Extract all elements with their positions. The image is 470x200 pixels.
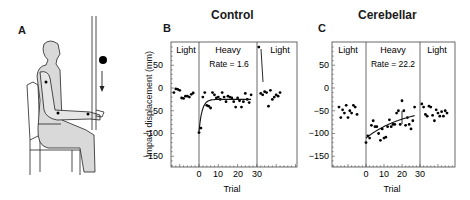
data-point <box>393 123 396 126</box>
data-point <box>384 136 387 139</box>
data-point <box>435 108 438 111</box>
data-point <box>257 46 260 49</box>
data-point <box>277 95 280 98</box>
plot-cerebellar: 50 0 −50 −100 −150 0 10 20 30 Trial Ligh… <box>309 42 455 194</box>
data-point <box>354 106 357 109</box>
data-point <box>223 96 226 99</box>
y-tick: −50 <box>314 106 329 116</box>
plot-control: 50 0 −50 −100 −150 0 10 20 30 Trial Ligh… <box>143 42 297 194</box>
data-point <box>273 96 276 99</box>
data-point <box>201 96 204 99</box>
data-point <box>404 124 407 127</box>
data-point <box>440 110 443 113</box>
plots-area: Impact displacement (mm) 50 0 −50 −100 −… <box>0 0 470 200</box>
y-tick: −100 <box>143 128 163 138</box>
y-tick: −150 <box>143 151 163 161</box>
data-point <box>437 112 440 115</box>
x-tick: 0 <box>363 169 368 179</box>
data-point <box>388 118 391 121</box>
data-point <box>446 112 449 115</box>
y-tick: −50 <box>148 106 163 116</box>
x-tick: 30 <box>415 169 425 179</box>
data-point <box>399 123 402 126</box>
data-point <box>401 99 404 102</box>
y-tick: −150 <box>309 151 329 161</box>
data-point <box>444 109 447 112</box>
data-point <box>411 119 414 122</box>
data-point <box>178 89 181 92</box>
data-point <box>426 115 429 118</box>
data-point <box>356 113 359 116</box>
data-point <box>232 100 235 103</box>
x-axis-label: Trial <box>223 184 240 194</box>
data-point <box>343 112 346 115</box>
data-point <box>198 131 201 134</box>
data-point <box>203 91 206 94</box>
data-point <box>368 137 371 140</box>
y-tick: 0 <box>324 83 329 93</box>
data-point <box>365 141 368 144</box>
data-point <box>438 115 441 118</box>
segment-label-light: Light <box>270 45 290 55</box>
data-point <box>279 91 282 94</box>
data-point <box>339 116 342 119</box>
data-point <box>433 119 436 122</box>
segment-label-light: Light <box>176 45 196 55</box>
data-point <box>341 108 344 111</box>
data-point <box>248 101 251 104</box>
data-point <box>242 100 245 103</box>
segment-label-light: Light <box>427 45 447 55</box>
y-tick: 50 <box>153 60 163 70</box>
data-point <box>225 100 228 103</box>
data-point <box>192 92 195 95</box>
data-point <box>240 106 243 109</box>
data-point <box>213 93 216 96</box>
data-point <box>173 91 176 94</box>
x-tick: 10 <box>213 169 223 179</box>
y-tick: −100 <box>309 128 329 138</box>
rate-annotation: Rate = 22.2 <box>371 59 415 69</box>
data-point <box>375 125 378 128</box>
data-point <box>410 128 413 131</box>
segment-label-heavy: Heavy <box>215 45 241 55</box>
data-point <box>347 116 350 119</box>
data-point <box>250 93 253 96</box>
data-point <box>221 91 224 94</box>
data-point <box>211 91 214 94</box>
rate-annotation: Rate = 1.6 <box>209 59 249 69</box>
data-point <box>408 123 411 126</box>
data-point <box>422 106 425 109</box>
x-tick: 10 <box>379 169 389 179</box>
data-point <box>261 93 264 96</box>
data-point <box>265 91 268 94</box>
data-point <box>350 112 353 115</box>
data-point <box>395 112 398 115</box>
data-point <box>188 96 191 99</box>
data-point <box>244 92 247 95</box>
data-point <box>370 124 373 127</box>
data-point <box>267 105 270 108</box>
data-point <box>217 96 220 99</box>
data-point <box>413 106 416 109</box>
data-point <box>182 97 185 100</box>
data-point <box>234 106 237 109</box>
y-tick: 50 <box>319 60 329 70</box>
data-point <box>377 132 380 135</box>
data-point <box>345 104 348 107</box>
transition-line <box>261 49 263 82</box>
data-point <box>348 109 351 112</box>
data-point <box>269 89 272 92</box>
data-point <box>209 107 212 110</box>
data-point <box>420 103 423 106</box>
segment-label-heavy: Heavy <box>380 45 406 55</box>
x-tick: 20 <box>397 169 407 179</box>
x-tick: 20 <box>233 169 243 179</box>
data-point <box>402 109 405 112</box>
y-tick: 0 <box>158 83 163 93</box>
data-point <box>379 139 382 142</box>
data-point <box>372 119 375 122</box>
data-point <box>338 106 341 109</box>
x-tick: 0 <box>196 169 201 179</box>
data-point <box>397 109 400 112</box>
data-point <box>390 125 393 128</box>
